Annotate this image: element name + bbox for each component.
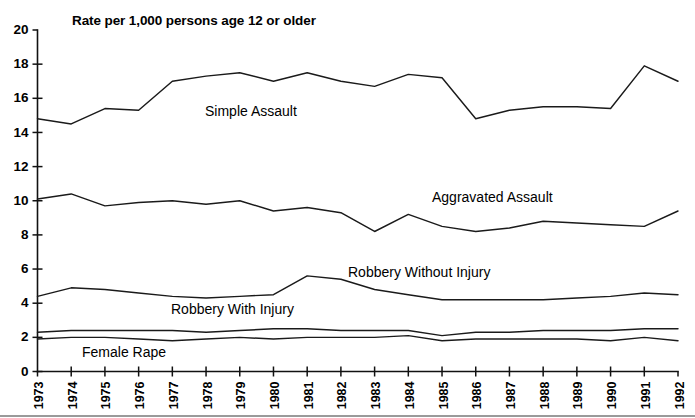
y-axis-tick-labels: 02468101214161820: [13, 22, 29, 379]
x-tick-label-1980: 1980: [268, 381, 282, 409]
x-tick-label-1982: 1982: [335, 381, 349, 409]
x-tick-label-1977: 1977: [167, 381, 181, 409]
y-tick-label-8: 8: [21, 227, 29, 242]
series-line-female-rape: [38, 336, 679, 341]
y-tick-label-6: 6: [21, 261, 29, 276]
x-tick-label-1991: 1991: [639, 381, 653, 409]
page-edge-rule: [0, 415, 695, 417]
x-tick-label-1978: 1978: [201, 381, 215, 409]
line-chart-plot: 02468101214161820 1973197419751976197719…: [0, 0, 695, 418]
x-tick-label-1983: 1983: [369, 381, 383, 409]
x-tick-label-1981: 1981: [302, 381, 316, 409]
x-tick-label-1988: 1988: [538, 381, 552, 409]
annotation-aggravated-assault: Aggravated Assault: [432, 189, 553, 205]
y-tick-label-12: 12: [13, 159, 28, 174]
chart-container: Rate per 1,000 persons age 12 or older 0…: [0, 0, 695, 418]
y-tick-label-16: 16: [13, 90, 29, 105]
annotation-robbery-with-injury: Robbery With Injury: [171, 301, 294, 317]
data-series: [38, 66, 679, 341]
x-tick-label-1975: 1975: [99, 381, 113, 409]
series-line-robbery-with-injury: [38, 329, 679, 336]
annotation-female-rape: Female Rape: [82, 344, 166, 360]
annotation-simple-assault: Simple Assault: [205, 103, 297, 119]
x-tick-label-1979: 1979: [234, 381, 248, 409]
x-tick-label-1990: 1990: [605, 381, 619, 409]
y-tick-label-20: 20: [13, 22, 28, 37]
y-tick-label-18: 18: [13, 56, 29, 71]
y-tick-label-14: 14: [13, 125, 29, 140]
x-axis-tick-labels: 1973197419751976197719781979198019811982…: [32, 381, 687, 409]
axes: [38, 30, 679, 372]
x-tick-label-1986: 1986: [470, 381, 484, 409]
x-tick-label-1985: 1985: [437, 381, 451, 409]
x-tick-label-1989: 1989: [571, 381, 585, 409]
x-tick-label-1976: 1976: [133, 381, 147, 409]
y-tick-label-4: 4: [21, 295, 29, 310]
y-tick-label-0: 0: [21, 364, 29, 379]
x-tick-label-1992: 1992: [673, 381, 687, 409]
x-tick-label-1974: 1974: [66, 381, 80, 409]
series-line-aggravated-assault: [38, 194, 679, 232]
x-tick-label-1987: 1987: [504, 381, 518, 409]
x-tick-label-1973: 1973: [32, 381, 46, 409]
x-tick-label-1984: 1984: [403, 381, 417, 409]
series-line-simple-assault: [38, 66, 679, 124]
y-tick-label-2: 2: [21, 329, 29, 344]
annotation-robbery-without-injury: Robbery Without Injury: [348, 264, 490, 280]
y-tick-label-10: 10: [13, 193, 28, 208]
